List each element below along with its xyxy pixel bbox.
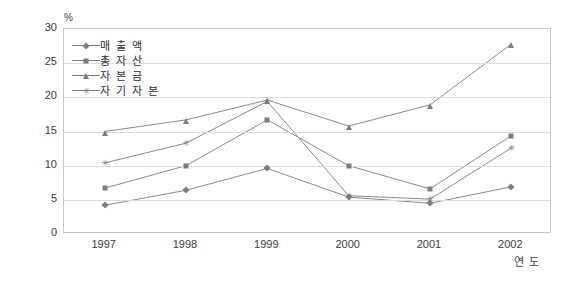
y-axis-tick-label: 5 bbox=[3, 193, 57, 204]
legend-label: 매 출 액 bbox=[100, 40, 144, 52]
x-axis-tick-label: 1999 bbox=[236, 238, 296, 250]
legend-item[interactable]: 자 본 금 bbox=[72, 68, 192, 83]
gridline bbox=[64, 132, 550, 133]
series-line bbox=[105, 120, 512, 189]
legend-item[interactable]: 매 출 액 bbox=[72, 38, 192, 53]
legend-item[interactable]: ✳자 기 자 본 bbox=[72, 83, 192, 98]
legend-label: 총 자 산 bbox=[100, 55, 144, 67]
y-axis-tick-label: 10 bbox=[3, 159, 57, 170]
legend-line bbox=[72, 90, 100, 91]
legend-label: 자 기 자 본 bbox=[100, 85, 160, 97]
legend-line bbox=[72, 60, 100, 61]
legend-marker-sample: ✳ bbox=[72, 85, 100, 97]
y-axis-tick-labels: 051015202530 bbox=[0, 28, 57, 233]
y-axis-tick-label: 30 bbox=[3, 22, 57, 33]
y-axis-tick-label: 25 bbox=[3, 56, 57, 67]
triangle-marker-icon bbox=[83, 73, 89, 79]
legend-marker-sample bbox=[72, 40, 100, 52]
y-axis-tick-label: 0 bbox=[3, 227, 57, 238]
legend-line bbox=[72, 45, 100, 46]
line-chart: % 051015202530 ✳✳✳✳✳✳ 199719981999200020… bbox=[0, 0, 581, 282]
x-axis-tick-label: 1998 bbox=[155, 238, 215, 250]
legend-item[interactable]: 총 자 산 bbox=[72, 53, 192, 68]
gridline bbox=[64, 166, 550, 167]
star-marker-icon: ✳ bbox=[83, 87, 90, 94]
x-axis-tick-labels: 199719981999200020012002 bbox=[63, 238, 551, 254]
x-axis-tick-label: 2000 bbox=[318, 238, 378, 250]
legend-marker-sample bbox=[72, 55, 100, 67]
y-axis-unit-label: % bbox=[64, 13, 73, 23]
diamond-marker-icon bbox=[82, 42, 89, 49]
y-axis-tick-label: 20 bbox=[3, 90, 57, 101]
series-line bbox=[105, 101, 512, 199]
x-axis-tick-label: 1997 bbox=[74, 238, 134, 250]
legend: 매 출 액총 자 산자 본 금✳자 기 자 본 bbox=[72, 38, 192, 98]
y-axis-tick-label: 15 bbox=[3, 125, 57, 136]
x-axis-tick-label: 2001 bbox=[399, 238, 459, 250]
legend-marker-sample bbox=[72, 70, 100, 82]
x-axis-tick-label: 2002 bbox=[480, 238, 540, 250]
legend-label: 자 본 금 bbox=[100, 70, 144, 82]
gridline bbox=[64, 200, 550, 201]
x-axis-title: 연 도 bbox=[514, 256, 540, 268]
legend-line bbox=[72, 75, 100, 76]
